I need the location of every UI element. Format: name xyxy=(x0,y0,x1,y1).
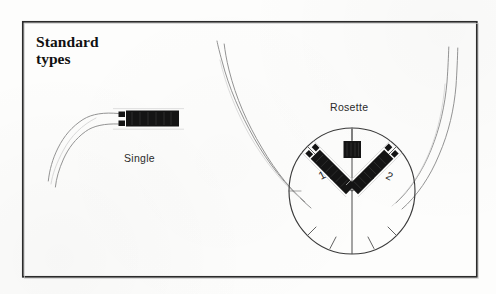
single-gauge-label: Single xyxy=(124,152,155,164)
rosette-label: Rosette xyxy=(330,101,368,113)
single-gauge-group xyxy=(48,109,184,187)
rosette-lead-right-inner xyxy=(396,47,449,203)
single-gauge-tab-lower xyxy=(119,121,126,127)
rosette-gauge-2-number: 2 xyxy=(384,169,395,182)
figure-title-line-2: types xyxy=(36,50,70,68)
rosette-tick xyxy=(308,227,317,236)
rosette-lead-left-inner xyxy=(224,44,311,208)
rosette-lead-right-outer xyxy=(402,48,458,209)
rosette-group: 1 2 xyxy=(217,41,458,254)
rosette-gauge-2-tab-a xyxy=(385,144,393,152)
figure-border-shadow xyxy=(25,24,479,279)
figure-border xyxy=(23,22,477,277)
figure-title: Standard xyxy=(36,33,99,51)
rosette-tick xyxy=(368,237,374,249)
rosette-tick xyxy=(388,227,397,236)
single-lead-wire-lower xyxy=(55,124,118,187)
rosette-lead-left-outer xyxy=(217,41,305,202)
figure-page: 1 2 Standard types Single Rosette xyxy=(0,0,496,294)
rosette-lead-right-ghost xyxy=(392,84,445,206)
rosette-gauge-1-tab-a xyxy=(312,144,320,152)
single-gauge-tab-upper xyxy=(119,112,126,118)
rosette-tick xyxy=(330,237,336,249)
